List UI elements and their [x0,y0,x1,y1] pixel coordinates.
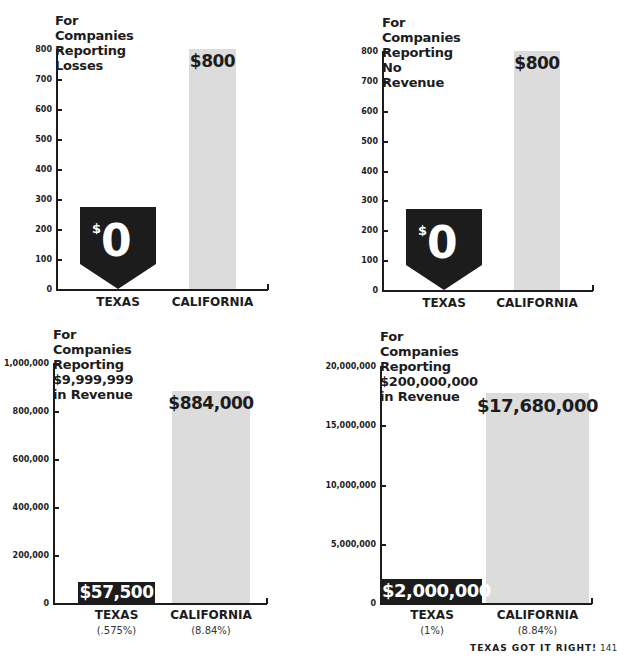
x-axis-end-tick [591,598,593,604]
bar-california [189,49,236,289]
chart-title: For Companies Reporting $9,999,999 in Re… [53,327,133,402]
y-tick [56,139,62,141]
y-tick [382,171,388,173]
y-tick-label: 600,000 [0,455,49,465]
y-tick [53,363,59,365]
y-tick [382,200,388,202]
y-tick [53,411,59,413]
y-tick-label: 600 [326,107,378,117]
rate-note-texas: (.575%) [62,625,172,636]
y-tick [53,459,59,461]
y-tick [56,169,62,171]
y-tick [382,141,388,143]
y-tick [56,109,62,111]
value-label-california: $884,000 [152,393,270,413]
x-axis [53,603,267,605]
value-label-texas: $2,000,000 [382,579,482,603]
y-tick [56,259,62,261]
x-label-texas: TEXAS [63,295,173,309]
y-tick-label: 0 [316,599,376,609]
y-tick-label: 0 [0,599,49,609]
y-tick [56,199,62,201]
y-tick-label: 15,000,000 [316,421,376,431]
y-tick-label: 200,000 [0,551,49,561]
x-axis-end-tick [266,598,268,604]
y-tick-label: 300 [326,196,378,206]
y-tick-label: 800 [0,45,52,55]
y-tick-label: 5,000,000 [316,540,376,550]
x-label-texas: TEXAS [377,608,487,622]
page-number: 141 [600,643,617,653]
x-label-california: CALIFORNIA [482,296,592,310]
bar-california [486,393,589,603]
chart-title: For Companies Reporting $200,000,000 in … [380,329,478,404]
y-tick-label: 0 [326,286,378,296]
y-tick-label: 1,000,000 [0,359,49,369]
x-label-california: CALIFORNIA [158,295,268,309]
rate-note-california: (8.84%) [483,625,593,636]
footer-slogan: TEXAS GOT IT RIGHT! [470,643,597,653]
x-axis-end-tick [592,285,594,291]
value-label-texas: $0 [92,215,132,267]
y-tick-label: 600 [0,105,52,115]
y-tick [380,485,386,487]
y-tick [56,229,62,231]
y-tick [53,555,59,557]
dollar-sign: $ [92,221,101,236]
bar-california [172,391,250,603]
value-label-texas: $57,500 [78,582,155,603]
y-tick-label: 200 [326,226,378,236]
y-tick [380,366,386,368]
y-tick-label: 400 [326,167,378,177]
y-tick-label: 500 [0,135,52,145]
y-tick-label: 200 [0,225,52,235]
y-tick-label: 100 [0,255,52,265]
dollar-sign: $ [418,223,427,238]
value-label-california: $800 [494,53,580,73]
y-tick [380,425,386,427]
y-tick-label: 10,000,000 [316,481,376,491]
x-axis [380,603,592,605]
zero-digit: 0 [101,215,132,266]
y-tick [380,544,386,546]
y-tick-label: 500 [326,137,378,147]
chart-title: For Companies Reporting No Revenue [382,15,461,90]
y-tick-label: 20,000,000 [316,362,376,372]
y-tick [382,51,388,53]
y-axis [53,363,55,605]
y-tick [382,81,388,83]
x-label-texas: TEXAS [62,608,172,622]
x-axis [382,290,593,292]
y-tick [53,507,59,509]
y-tick [382,260,388,262]
bar-california [514,51,560,290]
x-label-california: CALIFORNIA [156,608,266,622]
y-tick-label: 800,000 [0,407,49,417]
x-label-california: CALIFORNIA [483,608,593,622]
y-tick [56,49,62,51]
value-label-california: $17,680,000 [466,395,609,416]
y-tick [382,111,388,113]
y-tick-label: 400,000 [0,503,49,513]
y-tick-label: 700 [0,75,52,85]
value-label-texas: $0 [418,217,458,269]
y-tick-label: 400 [0,165,52,175]
y-tick-label: 100 [326,256,378,266]
value-label-california: $800 [169,51,256,71]
zero-digit: 0 [427,217,458,268]
y-tick [56,79,62,81]
y-tick [382,230,388,232]
y-tick-label: 800 [326,47,378,57]
y-tick-label: 300 [0,195,52,205]
x-axis-end-tick [267,284,269,290]
x-axis [56,289,268,291]
rate-note-texas: (1%) [377,625,487,636]
chart-title: For Companies Reporting Losses [55,13,134,73]
y-tick-label: 700 [326,77,378,87]
rate-note-california: (8.84%) [156,625,266,636]
y-tick-label: 0 [0,285,52,295]
